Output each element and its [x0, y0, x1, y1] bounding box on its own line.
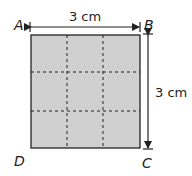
- vertex-label-d: D: [14, 153, 25, 169]
- right-dimension-label: 3 cm: [155, 85, 187, 100]
- vertex-label-c: C: [142, 155, 152, 171]
- top-dimension-label: 3 cm: [69, 9, 101, 24]
- right-dimension-arrow: [143, 34, 153, 149]
- vertex-label-a: A: [13, 17, 24, 33]
- square-diagram: 3 cm 3 cm A B C D: [0, 0, 192, 176]
- square: [31, 35, 140, 148]
- vertex-label-b: B: [144, 17, 154, 33]
